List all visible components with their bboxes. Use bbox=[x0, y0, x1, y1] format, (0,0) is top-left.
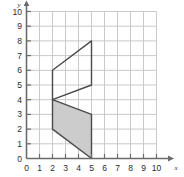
y-tick-label-0: 0 bbox=[17, 154, 22, 164]
coordinate-grid-figure: 0 1 2 3 4 5 6 7 8 9 10 0 1 2 3 4 5 6 7 8… bbox=[0, 0, 184, 177]
x-tick-label-5: 5 bbox=[89, 163, 94, 173]
x-tick-label-8: 8 bbox=[128, 163, 133, 173]
y-tick-label-3: 3 bbox=[17, 109, 22, 119]
y-tick-label-9: 9 bbox=[17, 21, 22, 31]
x-tick-label-7: 7 bbox=[115, 163, 120, 173]
y-tick-label-8: 8 bbox=[17, 36, 22, 46]
y-tick-label-5: 5 bbox=[17, 80, 22, 90]
x-tick-label-9: 9 bbox=[141, 163, 146, 173]
x-tick-label-6: 6 bbox=[102, 163, 107, 173]
x-tick-label-1: 1 bbox=[37, 163, 42, 173]
x-tick-label-4: 4 bbox=[76, 163, 81, 173]
y-tick-label-4: 4 bbox=[17, 95, 22, 105]
y-tick-label-7: 7 bbox=[17, 51, 22, 61]
x-tick-label-3: 3 bbox=[63, 163, 68, 173]
y-tick-label-2: 2 bbox=[17, 124, 22, 134]
y-tick-label-1: 1 bbox=[17, 139, 22, 149]
y-tick-label-6: 6 bbox=[17, 65, 22, 75]
x-tick-label-10: 10 bbox=[152, 163, 162, 173]
x-tick-label-0: 0 bbox=[24, 163, 29, 173]
plot-svg: 0 1 2 3 4 5 6 7 8 9 10 0 1 2 3 4 5 6 7 8… bbox=[0, 0, 184, 177]
x-tick-label-2: 2 bbox=[50, 163, 55, 173]
